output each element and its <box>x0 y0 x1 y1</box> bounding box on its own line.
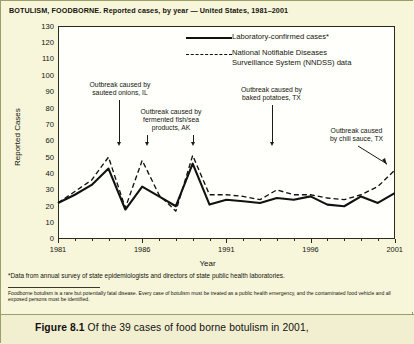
y-tick-label: 20 <box>30 203 54 211</box>
chart-title: BOTULISM, FOODBORNE. Reported cases, by … <box>9 6 409 15</box>
footnote-divider <box>8 287 100 288</box>
x-tick-mark <box>159 239 160 241</box>
x-tick-mark <box>75 239 76 241</box>
legend-item-nndss: National Notifiable Diseases Surveillanc… <box>186 48 391 67</box>
y-tick-label: 50 <box>30 154 54 162</box>
y-tick-label: 10 <box>30 219 54 227</box>
x-tick-mark <box>294 239 295 241</box>
footnote-secondary: Foodborne botulism is a rare but potenti… <box>8 290 408 303</box>
legend-dashed-line-icon <box>186 48 232 60</box>
annotation-line2: sauteed onions, IL <box>64 89 176 97</box>
annotation-line2: baked potatoes, TX <box>214 94 329 102</box>
x-tick-mark <box>125 239 126 241</box>
y-tick-label: 130 <box>30 23 54 31</box>
annotation-line1: Outbreak caused by <box>214 86 329 94</box>
annotation-line1: Outbreak caused by <box>64 81 176 89</box>
annotation-line2: fermented fish/sea <box>112 116 230 124</box>
annotation-baked-potatoes: Outbreak caused by baked potatoes, TX <box>214 86 329 102</box>
y-axis-title: Reported Cases <box>13 26 22 166</box>
x-tick-mark <box>109 239 110 241</box>
footnote-primary: *Data from annual survey of state epidem… <box>8 272 408 279</box>
x-axis-title: Year <box>1 259 414 268</box>
annotation-leader-potatoes <box>272 105 273 143</box>
y-tick-label: 70 <box>30 121 54 129</box>
x-tick-label: 2001 <box>386 245 402 254</box>
y-tick-label: 100 <box>30 72 54 80</box>
annotation-line2: by chili sauce, TX <box>304 135 409 143</box>
x-tick-label: 1996 <box>302 245 318 254</box>
legend-label-line1: National Notifiable Diseases <box>232 48 327 57</box>
x-tick-mark <box>92 239 93 241</box>
annotation-arrow-fish-b <box>191 142 195 146</box>
annotation-line1: Outbreak caused by <box>112 108 230 116</box>
annotation-arrow-onions <box>117 142 121 146</box>
x-tick-mark <box>260 239 261 241</box>
x-tick-mark <box>344 239 345 241</box>
annotation-sauteed-onions: Outbreak caused by sauteed onions, IL <box>64 81 176 97</box>
x-tick-mark <box>378 239 379 241</box>
x-tick-label: 1981 <box>50 245 66 254</box>
chart-legend: Laboratory-confirmed cases* National Not… <box>186 32 391 71</box>
y-tick-label: 90 <box>30 88 54 96</box>
x-tick-mark-major <box>58 239 59 243</box>
x-tick-mark <box>243 239 244 241</box>
annotation-line1: Outbreak caused <box>304 127 409 135</box>
legend-solid-line-icon <box>186 32 232 44</box>
x-tick-mark <box>193 239 194 241</box>
y-tick-label: 60 <box>30 137 54 145</box>
figure-label: Figure 8.1 <box>35 322 85 333</box>
x-tick-mark <box>327 239 328 241</box>
x-tick-mark <box>176 239 177 241</box>
annotation-fermented-fish: Outbreak caused by fermented fish/sea pr… <box>112 108 230 133</box>
x-tick-mark-major <box>311 239 312 243</box>
legend-label-line2: Surveillance System (NNDSS) data <box>232 58 351 67</box>
annotation-arrow-fish-a <box>145 142 149 146</box>
x-tick-mark-major <box>226 239 227 243</box>
figure-caption-text: Of the 39 cases of food borne botulism i… <box>88 322 309 333</box>
y-tick-label: 0 <box>30 235 54 243</box>
legend-item-laboratory-confirmed: Laboratory-confirmed cases* <box>186 32 391 44</box>
y-tick-label: 30 <box>30 186 54 194</box>
x-tick-mark-major <box>142 239 143 243</box>
x-tick-label: 1986 <box>134 245 150 254</box>
x-tick-mark-major <box>395 239 396 243</box>
y-axis-tick-labels: 130 120 110 100 90 80 70 60 50 40 30 20 … <box>27 1 54 244</box>
annotation-chili-sauce: Outbreak caused by chili sauce, TX <box>304 127 409 143</box>
x-tick-mark <box>277 239 278 241</box>
figure-caption: Figure 8.1 Of the 39 cases of food borne… <box>35 322 405 333</box>
caption-panel: Figure 8.1 Of the 39 cases of food borne… <box>1 314 414 344</box>
y-tick-label: 110 <box>30 55 54 63</box>
y-tick-label: 80 <box>30 105 54 113</box>
y-tick-label: 40 <box>30 170 54 178</box>
x-tick-mark <box>210 239 211 241</box>
x-tick-label: 1991 <box>218 245 234 254</box>
figure-panel: BOTULISM, FOODBORNE. Reported cases, by … <box>1 1 414 312</box>
legend-label: Laboratory-confirmed cases* <box>232 32 329 42</box>
x-tick-mark <box>361 239 362 241</box>
y-tick-label: 120 <box>30 39 54 47</box>
annotation-arrow-potatoes <box>270 142 274 146</box>
annotation-line3: products, AK <box>112 124 230 132</box>
